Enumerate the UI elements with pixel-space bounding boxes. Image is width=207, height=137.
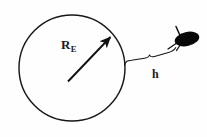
diagram-canvas bbox=[0, 0, 207, 137]
altitude-label: h bbox=[152, 68, 159, 80]
satellite-body bbox=[173, 29, 201, 48]
figure-root: RE h bbox=[0, 0, 207, 137]
satellite bbox=[168, 27, 201, 51]
radius-symbol: R bbox=[61, 37, 70, 52]
earth-circle bbox=[19, 15, 125, 121]
radius-subscript: E bbox=[71, 44, 77, 54]
radius-label: RE bbox=[61, 38, 76, 51]
altitude-brace bbox=[125, 48, 176, 66]
